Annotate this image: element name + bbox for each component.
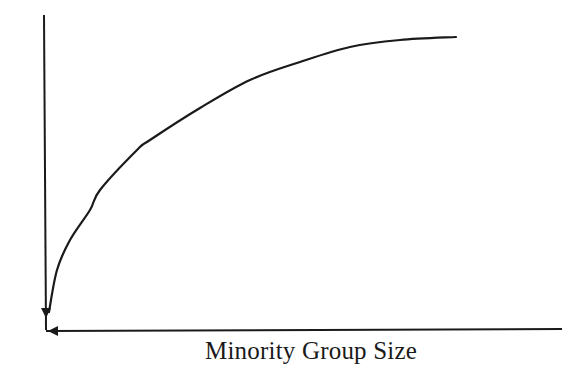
y-axis-line: [44, 15, 46, 330]
data-curve: [49, 37, 456, 312]
x-axis-arrow-left-icon: [48, 326, 58, 336]
x-axis-label: Minority Group Size: [205, 337, 435, 365]
chart: [0, 0, 585, 386]
x-axis-line: [46, 329, 562, 331]
